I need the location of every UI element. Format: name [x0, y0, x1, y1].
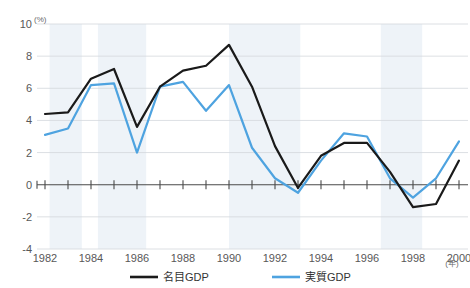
y-axis-unit-label: (%)	[34, 15, 47, 24]
y-tick-label: 4	[26, 114, 32, 126]
x-tick-label: 1982	[33, 252, 57, 264]
x-tick-label: 1996	[355, 252, 379, 264]
y-tick-label: 10	[20, 18, 32, 30]
shaded-band	[381, 24, 422, 249]
gdp-growth-line-chart: 1086420-2-4 1982198419861988199019921994…	[0, 0, 470, 288]
y-tick-label: 2	[26, 147, 32, 159]
y-axis-tick-labels: 1086420-2-4	[20, 18, 32, 255]
x-tick-label: 1990	[217, 252, 241, 264]
x-tick-label: 1992	[263, 252, 287, 264]
x-tick-label: 1994	[309, 252, 333, 264]
x-axis-tick-labels: 1982198419861988199019921994199619982000	[33, 252, 470, 264]
chart-canvas: 1086420-2-4 1982198419861988199019921994…	[0, 0, 470, 288]
x-tick-label: 1984	[79, 252, 103, 264]
legend-label-real-gdp: 実質GDP	[305, 270, 351, 283]
x-tick-label: 1998	[401, 252, 425, 264]
shaded-band	[98, 24, 146, 249]
shaded-band	[50, 24, 82, 249]
y-tick-label: -2	[22, 211, 32, 223]
y-tick-label: 8	[26, 50, 32, 62]
chart-legend: 名目GDP実質GDP	[130, 270, 351, 283]
legend-label-nominal-gdp: 名目GDP	[163, 270, 209, 283]
shaded-band	[229, 24, 300, 249]
x-axis-unit-label: (年)	[445, 258, 459, 268]
y-tick-label: -4	[22, 243, 32, 255]
y-tick-label: 6	[26, 82, 32, 94]
y-tick-label: 0	[26, 179, 32, 191]
x-tick-label: 1988	[171, 252, 195, 264]
x-tick-label: 1986	[125, 252, 149, 264]
